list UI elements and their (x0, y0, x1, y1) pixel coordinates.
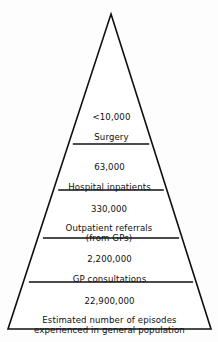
pyramid-tier-general-population: 22,900,000 Estimated number of episodes … (8, 286, 211, 342)
pyramid-diagram: <10,000 Surgery 63,000 Hospital inpatien… (0, 0, 218, 342)
tier-value-outpatient-referrals: 330,000 (30, 204, 188, 214)
tier-description-outpatient-referrals: Outpatient referrals (from GPs) (30, 224, 188, 244)
tier-value-surgery: <10,000 (59, 112, 164, 122)
tier-description-gp-consultations: GP consultations (22, 274, 197, 284)
pyramid-tier-surgery: <10,000 Surgery (59, 102, 164, 153)
tier-value-general-population: 22,900,000 (8, 296, 211, 306)
tier-description-hospital-inpatients: Hospital inpatients (44, 182, 175, 192)
tier-value-hospital-inpatients: 63,000 (44, 162, 175, 172)
tier-description-general-population: Estimated number of episodes experienced… (8, 316, 211, 336)
tier-value-gp-consultations: 2,200,000 (22, 254, 197, 264)
tier-description-surgery: Surgery (59, 132, 164, 142)
